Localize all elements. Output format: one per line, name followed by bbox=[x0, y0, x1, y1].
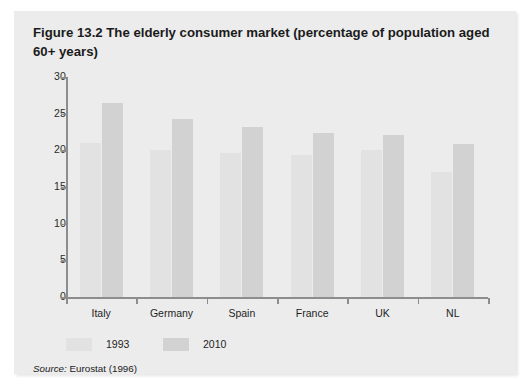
bar-france-1993 bbox=[291, 155, 312, 297]
y-tick: 20 bbox=[33, 150, 75, 151]
legend-item-1993: 1993 bbox=[66, 336, 129, 352]
bar-nl-2010 bbox=[453, 144, 474, 297]
x-tick-mark bbox=[277, 298, 279, 304]
y-tick-mark bbox=[61, 150, 67, 152]
y-tick-label: 30 bbox=[54, 70, 66, 82]
x-tick-mark bbox=[347, 298, 349, 304]
bar-spain-2010 bbox=[242, 127, 263, 297]
y-tick: 25 bbox=[33, 114, 75, 115]
chart-plot: 051015202530 ItalyGermanySpainFranceUKNL bbox=[33, 71, 498, 321]
bar-group-france bbox=[291, 77, 334, 297]
y-tick-label: 25 bbox=[54, 107, 66, 119]
x-axis-label-france: France bbox=[296, 307, 329, 319]
legend-item-2010: 2010 bbox=[163, 336, 226, 352]
figure-card: Figure 13.2 The elderly consumer market … bbox=[14, 11, 516, 374]
x-axis-label-germany: Germany bbox=[150, 307, 193, 319]
x-tick-mark bbox=[418, 298, 420, 304]
legend-label-2010: 2010 bbox=[203, 338, 226, 350]
source-text: Eurostat (1996) bbox=[70, 363, 138, 374]
legend-swatch-1993 bbox=[66, 338, 92, 351]
y-tick: 15 bbox=[33, 187, 75, 188]
y-tick-mark bbox=[61, 260, 67, 262]
x-tick-mark bbox=[66, 298, 68, 304]
bar-italy-1993 bbox=[80, 143, 101, 297]
x-axis-label-uk: UK bbox=[375, 307, 390, 319]
legend-label-1993: 1993 bbox=[106, 338, 129, 350]
bar-spain-1993 bbox=[220, 153, 241, 297]
y-tick-mark bbox=[61, 77, 67, 79]
source-note: Source: Eurostat (1996) bbox=[33, 363, 137, 374]
x-tick-mark bbox=[207, 298, 209, 304]
x-tick-mark bbox=[488, 298, 490, 304]
x-tick-mark bbox=[136, 298, 138, 304]
y-tick: 30 bbox=[33, 77, 75, 78]
y-tick-mark bbox=[61, 224, 67, 226]
bar-group-germany bbox=[150, 77, 193, 297]
figure-title: Figure 13.2 The elderly consumer market … bbox=[33, 23, 498, 61]
y-tick-mark bbox=[61, 187, 67, 189]
bar-germany-1993 bbox=[150, 150, 171, 297]
plot-area bbox=[67, 77, 488, 297]
source-label: Source: bbox=[33, 363, 67, 374]
y-tick-label: 15 bbox=[54, 180, 66, 192]
y-tick-label: 5 bbox=[60, 253, 66, 265]
bar-group-uk bbox=[361, 77, 404, 297]
bar-germany-2010 bbox=[172, 119, 193, 297]
y-tick: 5 bbox=[33, 260, 75, 261]
bar-nl-1993 bbox=[431, 172, 452, 297]
x-axis-label-spain: Spain bbox=[228, 307, 255, 319]
legend-swatch-2010 bbox=[163, 338, 189, 351]
bar-group-nl bbox=[431, 77, 474, 297]
bar-uk-1993 bbox=[361, 150, 382, 297]
y-tick: 10 bbox=[33, 224, 75, 225]
bar-group-spain bbox=[220, 77, 263, 297]
bar-france-2010 bbox=[313, 133, 334, 297]
y-tick: 0 bbox=[33, 297, 75, 298]
bar-italy-2010 bbox=[102, 103, 123, 297]
y-tick-label: 10 bbox=[54, 217, 66, 229]
y-tick-mark bbox=[61, 114, 67, 116]
figure-label: Figure 13.2 bbox=[33, 25, 103, 40]
bar-group-italy bbox=[80, 77, 123, 297]
x-axis-label-nl: NL bbox=[446, 307, 459, 319]
x-axis-label-italy: Italy bbox=[92, 307, 111, 319]
bar-uk-2010 bbox=[383, 135, 404, 297]
y-tick-label: 20 bbox=[54, 143, 66, 155]
